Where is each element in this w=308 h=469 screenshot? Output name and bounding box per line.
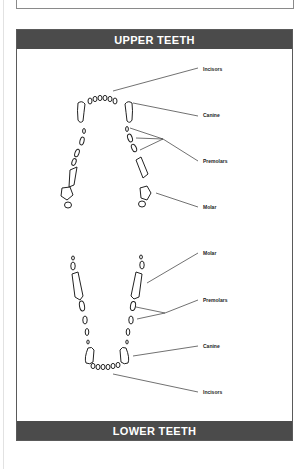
label-lower-incisors: Incisors bbox=[203, 389, 222, 395]
lower-premolars-right bbox=[126, 301, 136, 344]
upper-premolars-right bbox=[126, 127, 148, 179]
lower-molars-left bbox=[71, 256, 83, 300]
label-lower-molar: Molar bbox=[203, 250, 216, 256]
upper-molars-left bbox=[61, 187, 73, 208]
label-upper-premolars: Premolars bbox=[203, 158, 227, 164]
label-upper-canine: Canine bbox=[203, 112, 220, 118]
label-lower-canine: Canine bbox=[203, 343, 220, 349]
label-lower-premolars: Premolars bbox=[203, 297, 227, 303]
lower-canines bbox=[85, 347, 128, 363]
upper-incisors bbox=[88, 95, 117, 104]
upper-premolars-left bbox=[69, 129, 85, 188]
teeth-diagram bbox=[0, 0, 308, 469]
lower-molars-right bbox=[131, 255, 144, 299]
upper-canines bbox=[78, 102, 133, 123]
label-upper-incisors: Incisors bbox=[203, 66, 222, 72]
lower-premolars-left bbox=[79, 301, 90, 344]
label-upper-molar: Molar bbox=[203, 204, 216, 210]
upper-molars-right bbox=[139, 186, 152, 207]
lower-incisors bbox=[91, 362, 120, 369]
